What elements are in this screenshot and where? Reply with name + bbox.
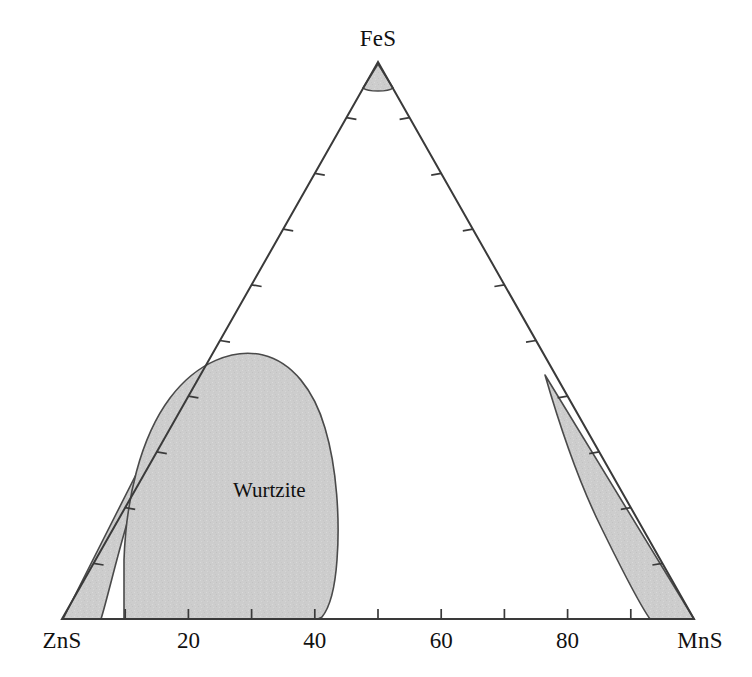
tick-label-40: 40	[303, 628, 326, 653]
fes-apex-field	[363, 64, 393, 91]
tick-label-20: 20	[177, 628, 200, 653]
wurtzite-field	[124, 353, 338, 619]
tick-label-60: 60	[430, 628, 453, 653]
right-axis-ticks	[400, 118, 663, 565]
mns-edge-sliver	[545, 375, 694, 619]
vertex-label-mns: MnS	[677, 628, 722, 653]
ternary-diagram: FeS ZnS MnS 20 40 60 80 Wurtzite	[0, 0, 752, 677]
ternary-plot-svg: FeS ZnS MnS 20 40 60 80 Wurtzite	[0, 0, 752, 677]
field-label-wurtzite: Wurtzite	[233, 478, 306, 502]
vertex-label-fes: FeS	[360, 26, 396, 51]
tick-label-80: 80	[556, 628, 579, 653]
vertex-label-zns: ZnS	[43, 628, 82, 653]
